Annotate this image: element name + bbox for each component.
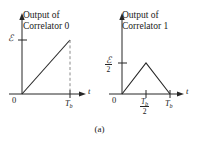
x-label-numerator: Tb — [140, 98, 149, 107]
x-axis-label-t: t — [88, 87, 90, 96]
triangle-curve — [122, 63, 170, 94]
x-tick-label-tb-half: Tb 2 — [140, 98, 149, 116]
x-axis-label-t: t — [186, 87, 188, 96]
chart-correlator-1: Output of Correlator 1 ℰ 2 0 Tb 2 — [100, 0, 199, 120]
y-label-denominator: 2 — [105, 65, 112, 73]
x-tick-label-tb: Tb — [165, 99, 173, 108]
origin-label: 0 — [112, 96, 116, 105]
ramp-curve — [22, 40, 70, 94]
x-tick-label-tb: Tb — [65, 99, 73, 108]
x-axis-arrow-icon — [79, 91, 86, 96]
y-label-numerator: ℰ — [105, 56, 112, 65]
x-label-denominator: 2 — [140, 107, 149, 115]
y-axis-label-energy: ℰ — [8, 34, 13, 43]
origin-label: 0 — [12, 96, 16, 105]
figure-panel-a: Output of Correlator 0 ℰ 0 Tb t — [0, 0, 199, 144]
y-axis-arrow-icon — [119, 13, 124, 20]
y-axis-label-energy-half: ℰ 2 — [105, 56, 112, 74]
figure-caption: (a) — [0, 124, 199, 134]
x-axis-arrow-icon — [177, 91, 184, 96]
chart-correlator-0: Output of Correlator 0 ℰ 0 Tb t — [0, 0, 99, 120]
y-axis-arrow-icon — [19, 13, 24, 20]
